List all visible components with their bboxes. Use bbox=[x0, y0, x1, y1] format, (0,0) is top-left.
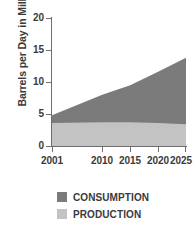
x-tick bbox=[130, 147, 131, 152]
y-tick-label: 0 bbox=[18, 141, 44, 151]
y-tick bbox=[46, 114, 51, 115]
area-chart: Barrels per Day in Millions 05101520 200… bbox=[0, 0, 196, 227]
y-tick-label: 10 bbox=[18, 77, 44, 87]
legend-label: PRODUCTION bbox=[73, 209, 141, 220]
y-axis-line bbox=[51, 17, 52, 147]
chart-legend: CONSUMPTIONPRODUCTION bbox=[57, 190, 149, 224]
legend-item: PRODUCTION bbox=[57, 207, 149, 221]
plot-area bbox=[52, 18, 186, 146]
y-tick bbox=[46, 18, 51, 19]
y-tick bbox=[46, 146, 51, 147]
legend-label: CONSUMPTION bbox=[73, 192, 149, 203]
x-tick bbox=[185, 147, 186, 152]
legend-swatch-icon bbox=[57, 192, 67, 202]
x-tick bbox=[52, 147, 53, 152]
y-tick bbox=[46, 82, 51, 83]
x-tick bbox=[102, 147, 103, 152]
legend-item: CONSUMPTION bbox=[57, 190, 149, 204]
legend-swatch-icon bbox=[57, 209, 67, 219]
x-axis-line bbox=[51, 146, 187, 147]
area-production bbox=[52, 122, 186, 146]
y-tick-label: 15 bbox=[18, 45, 44, 55]
plot-svg bbox=[52, 18, 186, 146]
y-tick-label: 20 bbox=[18, 13, 44, 23]
y-tick bbox=[46, 50, 51, 51]
x-tick-label: 2025 bbox=[165, 155, 196, 166]
y-tick-label: 5 bbox=[18, 109, 44, 119]
x-tick bbox=[158, 147, 159, 152]
x-tick-label: 2001 bbox=[36, 155, 68, 166]
